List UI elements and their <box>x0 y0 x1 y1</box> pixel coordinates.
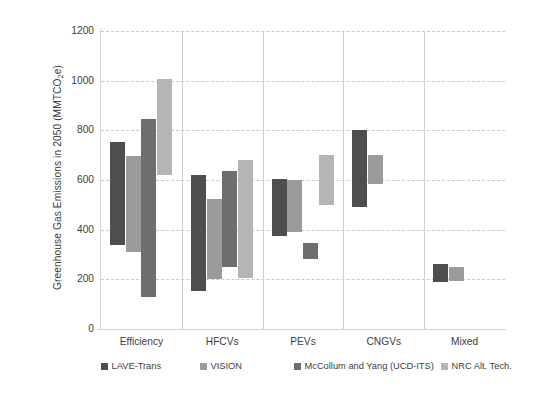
y-tick-label-1200: 1200 <box>52 26 94 36</box>
legend-label: VISION <box>211 362 243 371</box>
y-tick-label-800: 800 <box>52 125 94 135</box>
x-axis-label-efficiency: Efficiency <box>101 336 182 347</box>
bar-efficiency-nrc-alt-tech <box>157 79 172 175</box>
bar-mixed-lave-trans <box>433 264 448 281</box>
bar-hfcvs-lave-trans <box>191 175 206 290</box>
legend-swatch-icon <box>101 363 108 370</box>
chart-legend: LAVE-TransVISIONMcCollum and Yang (UCD-I… <box>101 362 511 378</box>
bar-mixed-vision <box>449 267 464 281</box>
legend-swatch-icon <box>200 363 207 370</box>
bar-efficiency-mccollum-and-yang-ucd-its <box>141 119 156 297</box>
legend-label: LAVE-Trans <box>112 362 162 371</box>
bar-cngvs-vision <box>368 155 383 184</box>
legend-swatch-icon <box>294 363 301 370</box>
bar-hfcvs-vision <box>207 199 222 280</box>
category-separator-1 <box>182 31 183 329</box>
gridline-0 <box>101 329 505 330</box>
plot-area <box>101 31 505 329</box>
legend-swatch-icon <box>441 363 448 370</box>
legend-item-lave-trans[interactable]: LAVE-Trans <box>101 362 161 371</box>
gridline-1200 <box>101 31 505 32</box>
bar-pevs-nrc-alt-tech <box>319 155 334 205</box>
y-tick-label-200: 200 <box>52 274 94 284</box>
x-axis-label-mixed: Mixed <box>424 336 505 347</box>
bar-efficiency-lave-trans <box>110 142 125 245</box>
bar-pevs-lave-trans <box>272 179 287 236</box>
bar-hfcvs-mccollum-and-yang-ucd-its <box>222 171 237 267</box>
bar-efficiency-vision <box>126 156 141 252</box>
category-separator-4 <box>424 31 425 329</box>
gridline-400 <box>101 230 505 231</box>
x-axis-label-pevs: PEVs <box>263 336 344 347</box>
bar-pevs-mccollum-and-yang-ucd-its <box>303 243 318 260</box>
y-tick-label-1000: 1000 <box>52 76 94 86</box>
x-axis-label-hfcvs: HFCVs <box>182 336 263 347</box>
bar-hfcvs-nrc-alt-tech <box>238 160 253 278</box>
category-separator-2 <box>263 31 264 329</box>
bar-cngvs-lave-trans <box>352 130 367 207</box>
y-axis-tick-labels: 120010008006004002000 <box>50 31 94 329</box>
legend-label: McCollum and Yang (UCD-ITS) <box>305 362 434 371</box>
x-axis-label-cngvs: CNGVs <box>343 336 424 347</box>
legend-label: NRC Alt. Tech. <box>452 362 512 371</box>
y-tick-label-0: 0 <box>52 324 94 334</box>
category-separator-3 <box>343 31 344 329</box>
legend-item-nrc-alt-tech[interactable]: NRC Alt. Tech. <box>441 362 512 371</box>
legend-item-vision[interactable]: VISION <box>200 362 242 371</box>
bar-pevs-vision <box>287 180 302 232</box>
bar-chart: Greenhouse Gas Emissions in 2050 (MMTCO2… <box>0 0 553 406</box>
y-tick-label-600: 600 <box>52 175 94 185</box>
legend-item-mccollum-and-yang-ucd-its[interactable]: McCollum and Yang (UCD-ITS) <box>294 362 434 371</box>
gridline-600 <box>101 180 505 181</box>
y-tick-label-400: 400 <box>52 225 94 235</box>
